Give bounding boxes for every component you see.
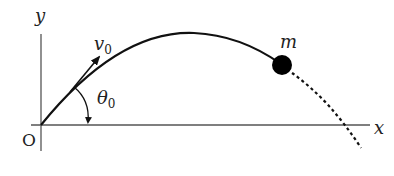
angle-label: θ0 [97, 87, 115, 111]
velocity-label: v0 [94, 33, 112, 57]
trajectory-solid [41, 33, 281, 125]
y-axis-label: y [34, 5, 46, 26]
mass-label: m [280, 31, 297, 52]
mass-ball [272, 55, 292, 75]
projectile-diagram: y x O v0 θ0 m [0, 0, 394, 176]
angle-arc [74, 87, 88, 122]
trajectory-dashed [292, 73, 361, 148]
x-axis-label: x [374, 117, 384, 138]
origin-label: O [22, 130, 36, 150]
